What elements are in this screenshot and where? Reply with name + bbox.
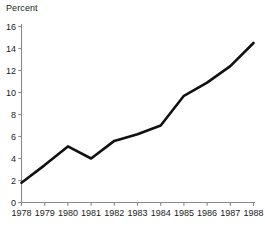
x-tick-label: 1981	[81, 208, 101, 218]
x-tick-label: 1983	[127, 208, 147, 218]
y-tick-label: 14	[6, 44, 16, 54]
y-tick-label: 6	[11, 132, 16, 142]
y-tick-label: 10	[6, 88, 16, 98]
y-tick-label: 4	[11, 154, 16, 164]
y-tick-labels: 0246810121416	[6, 22, 16, 208]
x-tick-label: 1985	[174, 208, 194, 218]
y-tick-label: 8	[11, 110, 16, 120]
y-tick-label: 0	[11, 198, 16, 208]
data-series-line	[22, 43, 254, 183]
y-tick-label: 2	[11, 176, 16, 186]
x-tick-label: 1982	[104, 208, 124, 218]
y-tick-label: 12	[6, 66, 16, 76]
x-tick-label: 1978	[11, 208, 31, 218]
x-tick-labels: 1978197919801981198219831984198519861987…	[11, 208, 263, 218]
x-axis: 1978197919801981198219831984198519861987…	[11, 203, 263, 219]
x-tick-label: 1987	[220, 208, 240, 218]
x-tick-label: 1984	[151, 208, 171, 218]
x-tick-label: 1979	[35, 208, 55, 218]
x-tick-label: 1980	[58, 208, 78, 218]
y-axis: 0246810121416	[6, 22, 22, 208]
y-tick-label: 16	[6, 22, 16, 32]
x-tick-label: 1988	[243, 208, 263, 218]
plot-area: 0246810121416 19781979198019811982198319…	[0, 0, 265, 227]
line-chart: Percent 0246810121416 197819791980198119…	[0, 0, 265, 227]
x-tick-label: 1986	[197, 208, 217, 218]
